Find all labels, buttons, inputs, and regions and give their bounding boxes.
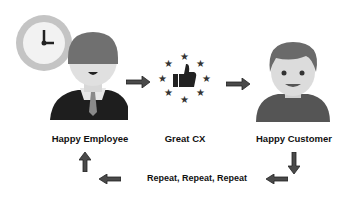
arrow-left-icon <box>266 174 288 184</box>
loop-label: Repeat, Repeat, Repeat <box>132 173 262 183</box>
svg-text:★: ★ <box>196 58 205 69</box>
node-label-employee: Happy Employee <box>40 133 140 144</box>
arrow-left-icon <box>99 174 121 184</box>
node-label-cx: Great CX <box>150 133 220 144</box>
svg-text:★: ★ <box>180 51 189 62</box>
employee-with-clock-icon <box>8 8 128 126</box>
svg-text:★: ★ <box>158 73 167 84</box>
svg-text:★: ★ <box>164 87 173 98</box>
svg-text:★: ★ <box>202 73 211 84</box>
thumbs-up-stars-icon: ★ ★ ★ ★ ★ ★ ★ ★ <box>156 50 212 106</box>
arrow-down-icon <box>288 152 300 174</box>
arrow-right-icon <box>226 78 250 90</box>
svg-text:★: ★ <box>180 94 189 105</box>
arrow-right-icon <box>126 76 150 88</box>
customer-avatar-icon <box>252 36 334 122</box>
node-label-customer: Happy Customer <box>244 133 344 144</box>
arrow-up-icon <box>79 152 91 172</box>
svg-text:★: ★ <box>164 58 173 69</box>
svg-text:★: ★ <box>196 87 205 98</box>
